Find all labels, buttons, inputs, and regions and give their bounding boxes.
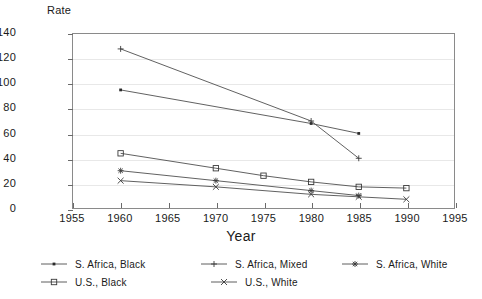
series-2 <box>118 168 362 199</box>
data-point-plus <box>211 261 217 267</box>
series-line <box>121 90 359 133</box>
x-tick-mark <box>217 203 218 208</box>
x-tick-label: 1975 <box>241 212 287 224</box>
x-tick-mark <box>73 203 74 208</box>
y-tick-mark <box>68 59 73 60</box>
x-tick-label: 1965 <box>145 212 191 224</box>
y-tick-label: 60 <box>0 127 16 139</box>
data-point-plus <box>308 118 314 124</box>
series-4 <box>118 178 410 203</box>
gridline <box>73 84 454 85</box>
data-point-cross <box>356 194 362 200</box>
x-tick-label: 1960 <box>97 212 143 224</box>
legend-label: S. Africa, Mixed <box>235 259 308 270</box>
data-point-square <box>118 151 123 156</box>
series-line <box>121 49 359 158</box>
data-point-square <box>404 185 409 190</box>
y-tick-label: 100 <box>0 76 16 88</box>
y-tick-label: 120 <box>0 51 16 63</box>
data-point-asterisk <box>352 261 358 267</box>
data-point-square <box>213 166 218 171</box>
x-tick-mark <box>456 203 457 208</box>
legend-label: S. Africa, White <box>376 259 448 270</box>
cross-marker-icon <box>210 276 238 288</box>
x-tick-label: 1955 <box>49 212 95 224</box>
x-tick-mark <box>360 203 361 208</box>
x-tick-mark <box>408 203 409 208</box>
y-tick-label: 0 <box>0 202 16 214</box>
y-tick-mark <box>68 109 73 110</box>
dot-marker-icon <box>40 258 68 270</box>
legend-label: U.S., White <box>245 277 298 288</box>
x-tick-label: 1990 <box>384 212 430 224</box>
data-point-square <box>261 173 266 178</box>
data-point-cross <box>403 196 409 202</box>
data-point-asterisk <box>213 178 219 184</box>
legend-item[interactable]: S. Africa, Black <box>40 258 200 270</box>
series-line <box>121 153 407 188</box>
data-point-cross <box>308 191 314 197</box>
data-point-dot <box>310 122 313 125</box>
data-point-square <box>308 179 313 184</box>
y-axis-title: Rate <box>47 4 71 16</box>
asterisk-marker-icon <box>341 258 369 270</box>
data-point-dot <box>53 263 56 266</box>
line-chart: Rate 020406080100120140 1955196019651970… <box>0 0 482 299</box>
x-tick-label: 1970 <box>193 212 239 224</box>
series-0 <box>119 89 360 135</box>
plus-marker-icon <box>200 258 228 270</box>
legend-label: S. Africa, Black <box>75 259 145 270</box>
y-tick-mark <box>68 185 73 186</box>
legend-item[interactable]: S. Africa, White <box>341 258 482 270</box>
legend-row: U.S., BlackU.S., White <box>0 276 482 288</box>
y-tick-mark <box>68 34 73 35</box>
y-tick-mark <box>68 210 73 211</box>
chart-legend: S. Africa, BlackS. Africa, MixedS. Afric… <box>0 258 482 294</box>
plot-area <box>72 33 455 209</box>
data-point-asterisk <box>308 188 314 194</box>
x-tick-mark <box>121 203 122 208</box>
series-line <box>121 171 359 196</box>
data-point-dot <box>119 89 122 92</box>
square-marker-icon <box>40 276 68 288</box>
x-tick-label: 1985 <box>336 212 382 224</box>
legend-item[interactable]: U.S., White <box>210 276 360 288</box>
data-point-plus <box>118 46 124 52</box>
y-tick-mark <box>68 84 73 85</box>
gridline <box>73 135 454 136</box>
legend-item[interactable]: U.S., Black <box>40 276 210 288</box>
y-tick-label: 80 <box>0 101 16 113</box>
gridline <box>73 185 454 186</box>
data-point-cross <box>118 178 124 184</box>
y-tick-label: 140 <box>0 26 16 38</box>
gridline <box>73 109 454 110</box>
y-tick-label: 40 <box>0 152 16 164</box>
legend-item[interactable]: S. Africa, Mixed <box>200 258 341 270</box>
y-tick-mark <box>68 160 73 161</box>
legend-row: S. Africa, BlackS. Africa, MixedS. Afric… <box>0 258 482 270</box>
x-tick-mark <box>265 203 266 208</box>
gridline <box>73 59 454 60</box>
x-tick-label: 1980 <box>288 212 334 224</box>
data-point-asterisk <box>356 193 362 199</box>
x-tick-mark <box>312 203 313 208</box>
x-tick-mark <box>169 203 170 208</box>
legend-label: U.S., Black <box>75 277 127 288</box>
y-tick-label: 20 <box>0 177 16 189</box>
y-tick-mark <box>68 135 73 136</box>
series-1 <box>118 46 362 161</box>
gridline <box>73 160 454 161</box>
series-line <box>121 181 407 200</box>
x-tick-label: 1995 <box>432 212 478 224</box>
x-axis-title: Year <box>0 228 482 244</box>
data-point-asterisk <box>118 168 124 174</box>
